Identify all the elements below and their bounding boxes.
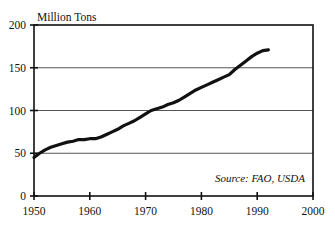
source-annotation: Source: FAO, USDA	[215, 172, 305, 184]
x-tick-label: 1980	[190, 205, 213, 217]
y-tick-label: 150	[9, 62, 27, 74]
chart-page: 050100150200 195019601970198019902000 Mi…	[0, 0, 335, 228]
y-tick-label: 100	[9, 105, 27, 117]
x-tick-label: 1960	[78, 205, 101, 217]
x-tick-label: 2000	[302, 205, 325, 217]
page-title: Million Tons	[37, 11, 97, 23]
x-tick-label: 1950	[23, 205, 46, 217]
x-tick-label: 1970	[134, 205, 157, 217]
y-tick-label: 0	[20, 190, 26, 202]
y-tick-label: 200	[9, 19, 27, 31]
y-tick-label: 50	[15, 147, 27, 159]
x-tick-label: 1990	[246, 205, 269, 217]
chart-background	[0, 0, 335, 228]
line-chart: 050100150200 195019601970198019902000 Mi…	[0, 0, 335, 228]
